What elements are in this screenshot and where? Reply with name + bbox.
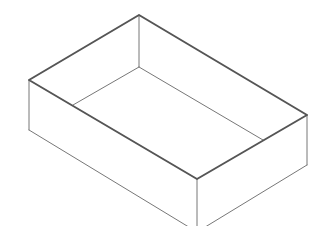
bottom-right-edge [197, 165, 307, 226]
open-box-diagram [0, 0, 325, 226]
bottom-left-edge [29, 130, 197, 226]
box-rim [29, 15, 307, 179]
inner-floor-left [73, 67, 139, 105]
